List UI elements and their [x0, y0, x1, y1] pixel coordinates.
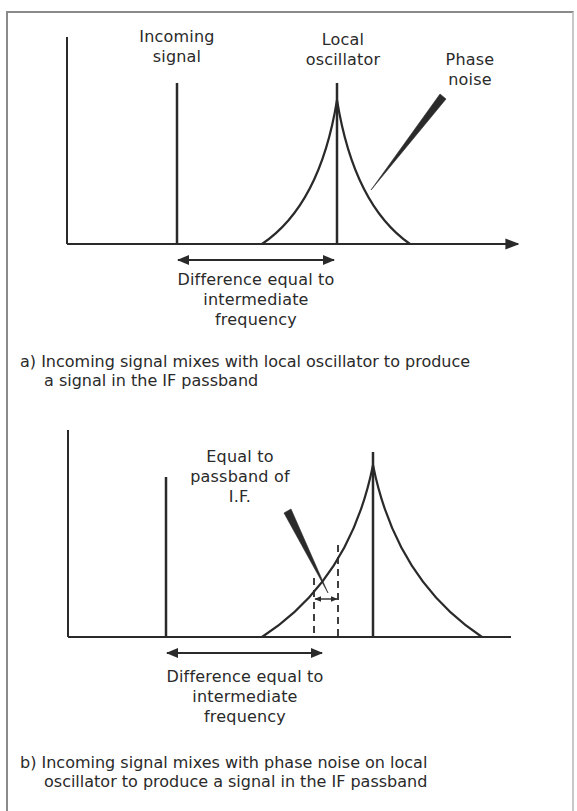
label-line: oscillator: [306, 50, 381, 70]
panel-a-difference-label: Difference equal to intermediate frequen…: [177, 270, 334, 330]
caption-line-1: a) Incoming signal mixes with local osci…: [20, 352, 470, 371]
label-line: intermediate: [166, 687, 323, 707]
label-line: Phase: [446, 50, 495, 70]
label-line: intermediate: [177, 290, 334, 310]
label-line: I.F.: [190, 487, 290, 507]
caption-line-1: b) Incoming signal mixes with phase nois…: [20, 753, 427, 772]
label-line: Incoming: [139, 27, 214, 47]
panel-a-phase-noise-pointer: [371, 94, 446, 190]
label-line: noise: [446, 70, 495, 90]
panel-b-difference-label: Difference equal to intermediate frequen…: [166, 667, 323, 727]
label-passband-of-if: Equal to passband of I.F.: [190, 447, 290, 507]
panel-b-passband-pointer: [284, 509, 328, 593]
caption-line-2: a signal in the IF passband: [20, 371, 470, 390]
label-line: frequency: [177, 310, 334, 330]
label-local-oscillator: Local oscillator: [306, 30, 381, 70]
label-line: Difference equal to: [177, 270, 334, 290]
caption-line-2: oscillator to produce a signal in the IF…: [20, 772, 427, 791]
label-line: Local: [306, 30, 381, 50]
label-phase-noise: Phase noise: [446, 50, 495, 90]
panel-a-caption: a) Incoming signal mixes with local osci…: [20, 352, 470, 390]
label-line: signal: [139, 47, 214, 67]
label-line: Equal to: [190, 447, 290, 467]
label-incoming-signal: Incoming signal: [139, 27, 214, 67]
label-line: frequency: [166, 707, 323, 727]
label-line: passband of: [190, 467, 290, 487]
panel-b-caption: b) Incoming signal mixes with phase nois…: [20, 753, 427, 791]
label-line: Difference equal to: [166, 667, 323, 687]
